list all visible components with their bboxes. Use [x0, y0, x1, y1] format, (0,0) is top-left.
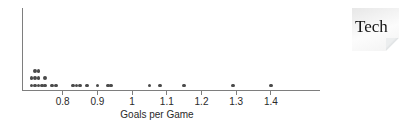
- data-dot: [96, 84, 100, 88]
- tech-note: Tech: [352, 8, 399, 51]
- data-dot: [78, 84, 82, 88]
- data-dot: [158, 84, 162, 88]
- x-tick-label: 1.2: [189, 96, 215, 107]
- x-tick: [166, 90, 167, 95]
- data-dot: [37, 76, 41, 80]
- data-dot: [37, 69, 41, 73]
- x-tick-label: 0.9: [84, 96, 110, 107]
- x-tick: [132, 90, 133, 95]
- x-tick: [62, 90, 63, 95]
- x-tick: [236, 90, 237, 95]
- x-tick-label: 1.4: [258, 96, 284, 107]
- x-axis-title: Goals per Game: [92, 109, 222, 121]
- data-dot: [85, 84, 89, 88]
- data-dot: [269, 84, 273, 88]
- data-dot: [43, 76, 47, 80]
- x-tick-label: 1.3: [223, 96, 249, 107]
- folded-corner-icon: [386, 38, 399, 51]
- data-dot: [231, 84, 235, 88]
- data-dot: [148, 84, 152, 88]
- x-axis-line: [22, 90, 320, 91]
- data-dot: [43, 84, 47, 88]
- x-tick: [270, 90, 271, 95]
- x-tick-label: 1.1: [154, 96, 180, 107]
- y-axis-line: [22, 8, 23, 91]
- x-tick: [201, 90, 202, 95]
- x-tick-label: 0.8: [50, 96, 76, 107]
- data-dot: [109, 84, 113, 88]
- data-dot: [54, 84, 58, 88]
- x-tick: [97, 90, 98, 95]
- screenshot-canvas: 0.80.911.11.21.31.4 Goals per Game Tech: [0, 0, 408, 134]
- x-tick-label: 1: [119, 96, 145, 107]
- data-dot: [182, 84, 186, 88]
- tech-note-label: Tech: [355, 17, 388, 37]
